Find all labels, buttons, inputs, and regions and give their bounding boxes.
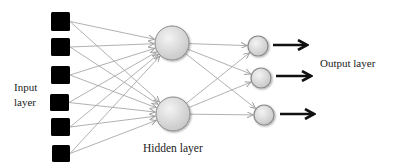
connection-line [189, 82, 251, 107]
output-layer-nodes [248, 36, 274, 125]
input-layer-label-line2: layer [14, 95, 48, 110]
input-node [50, 94, 69, 111]
connection-line [189, 44, 247, 46]
input-node [51, 38, 70, 56]
input-layer-label: Input layer [14, 80, 48, 110]
output-node [254, 105, 274, 125]
input-to-hidden-connections [69, 22, 160, 154]
hidden-layer-label: Hidden layer [143, 141, 203, 156]
hidden-to-output-connections [185, 44, 255, 115]
hidden-layer-nodes [155, 26, 190, 131]
output-arrows [273, 45, 314, 114]
input-layer-nodes [50, 12, 70, 162]
input-node [52, 145, 70, 162]
connection-line [188, 49, 251, 74]
connection-line [69, 103, 155, 113]
connection-line [190, 114, 253, 115]
connection-line [70, 54, 158, 127]
hidden-node [155, 26, 189, 60]
hidden-node [156, 97, 190, 131]
connection-line [70, 47, 158, 104]
connection-line [70, 48, 155, 75]
input-layer-label-line1: Input [14, 80, 48, 95]
input-node [51, 66, 70, 84]
connection-line [70, 22, 154, 40]
output-layer-label: Output layer [320, 56, 375, 71]
connection-line [70, 44, 154, 47]
input-node [51, 12, 70, 31]
output-node [251, 68, 271, 88]
input-node [51, 118, 70, 136]
output-node [248, 36, 268, 56]
